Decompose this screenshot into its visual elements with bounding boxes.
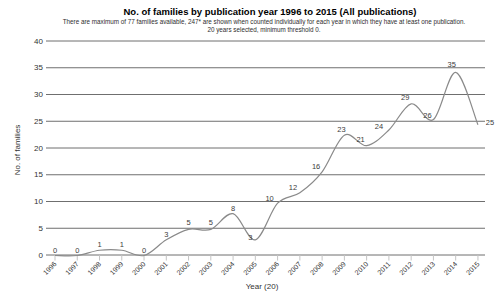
x-tick-label: 2006 <box>264 260 280 276</box>
x-tick-label: 2003 <box>198 260 214 276</box>
y-tick-label: 35 <box>34 63 43 72</box>
point-value-label: 5 <box>209 218 213 227</box>
x-tick-label: 2010 <box>353 260 369 276</box>
x-tick-label: 2004 <box>220 260 236 276</box>
point-value-label: 16 <box>312 162 320 171</box>
x-tick-label: 2015 <box>465 260 481 276</box>
x-tick-label: 1997 <box>64 260 80 276</box>
y-axis-title: No. of families <box>13 125 22 176</box>
x-tick-label: 1999 <box>109 260 125 276</box>
y-tick-label: 15 <box>34 170 43 179</box>
point-value-label: 3 <box>164 230 168 239</box>
y-tick-label: 30 <box>34 90 43 99</box>
y-tick-label: 40 <box>34 37 43 46</box>
point-value-label: 8 <box>231 204 235 213</box>
point-value-label: 12 <box>289 183 297 192</box>
point-value-label: 21 <box>356 135 364 144</box>
point-value-label: 10 <box>265 194 273 203</box>
point-value-label: 35 <box>448 60 456 69</box>
point-value-label: 1 <box>120 240 124 249</box>
y-tick-label: 25 <box>34 117 43 126</box>
point-value-label: 24 <box>375 122 383 131</box>
point-value-label: 0 <box>53 246 57 255</box>
x-tick-label: 2000 <box>131 260 147 276</box>
x-tick-label: 2013 <box>420 260 436 276</box>
point-value-label: 5 <box>187 218 191 227</box>
point-value-label: 26 <box>423 111 431 120</box>
y-tick-label: 20 <box>34 144 43 153</box>
x-tick-label: 2005 <box>242 260 258 276</box>
chart: 0510152025303540 19961997199819992000200… <box>0 0 503 303</box>
point-value-label: 3 <box>248 233 252 242</box>
x-axis-tick-labels: 1996199719981999200020012002200320042005… <box>42 260 481 276</box>
y-tick-label: 5 <box>39 224 44 233</box>
x-tick-label: 2001 <box>153 260 169 276</box>
point-value-label: 23 <box>337 125 345 134</box>
x-tick-label: 2002 <box>175 260 191 276</box>
x-tick-label: 2012 <box>398 260 414 276</box>
x-tick-label: 2014 <box>442 260 458 276</box>
point-value-label: 1 <box>97 240 101 249</box>
point-value-label: 25 <box>486 118 494 127</box>
point-value-labels: 001103558310121623212429263525 <box>53 60 494 254</box>
gridlines <box>46 41 485 255</box>
y-axis-tick-labels: 0510152025303540 <box>34 37 43 260</box>
point-value-label: 0 <box>142 246 146 255</box>
chart-subtitle-line1: There are maximum of 77 families availab… <box>63 18 466 26</box>
point-value-label: 0 <box>75 246 79 255</box>
x-axis-ticks <box>55 255 478 261</box>
y-tick-label: 10 <box>34 197 43 206</box>
x-tick-label: 2007 <box>287 260 303 276</box>
x-tick-label: 1998 <box>86 260 102 276</box>
x-tick-label: 1996 <box>42 260 58 276</box>
y-tick-label: 0 <box>39 251 44 260</box>
chart-title: No. of families by publication year 1996… <box>124 6 417 17</box>
x-tick-label: 2009 <box>331 260 347 276</box>
chart-subtitle-line2: 20 years selected, minimum threshold 0. <box>207 26 320 34</box>
x-tick-label: 2011 <box>376 260 392 276</box>
x-tick-label: 2008 <box>309 260 325 276</box>
point-value-label: 29 <box>401 93 409 102</box>
line-chart-canvas: 0510152025303540 19961997199819992000200… <box>0 0 503 303</box>
x-axis-title: Year (20) <box>246 282 279 291</box>
